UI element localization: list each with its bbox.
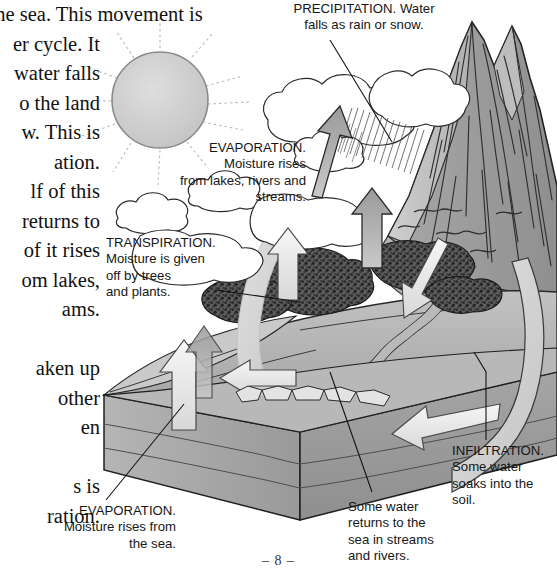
label-infiltration: INFILTRATION. Some water soaks into the …	[452, 443, 557, 509]
body-line: ams.	[0, 295, 100, 325]
paragraph-gap	[0, 325, 100, 355]
label-precipitation: PRECIPITATION. Water falls as rain or sn…	[269, 1, 459, 34]
body-line: other	[0, 384, 100, 414]
textbook-page: nd the sea. This movement is er cycle. I…	[0, 0, 557, 579]
body-line: o the land	[0, 89, 100, 119]
body-line: en	[0, 413, 100, 443]
body-line: om lakes,	[0, 266, 100, 296]
body-line: nd the sea. This movement is	[0, 0, 100, 30]
sun-icon	[112, 52, 208, 148]
page-number: – 8 –	[0, 553, 557, 569]
body-line: water falls	[0, 59, 100, 89]
body-line: returns to	[0, 207, 100, 237]
body-line: lf of this	[0, 177, 100, 207]
paragraph-gap	[0, 443, 100, 473]
body-line: w. This is	[0, 118, 100, 148]
body-line: aken up	[0, 354, 100, 384]
body-line: of it rises	[0, 236, 100, 266]
label-evaporation-sea: EVAPORATION. Moisture rises from the sea…	[0, 503, 176, 552]
label-evaporation-lakes: EVAPORATION. Moisture rises from lakes, …	[136, 140, 306, 206]
body-text-column: nd the sea. This movement is er cycle. I…	[0, 0, 100, 531]
body-line: ation.	[0, 148, 100, 178]
body-line: er cycle. It	[0, 30, 100, 60]
body-line: s is	[0, 472, 100, 502]
label-transpiration: TRANSPIRATION. Moisture is given off by …	[106, 235, 256, 301]
